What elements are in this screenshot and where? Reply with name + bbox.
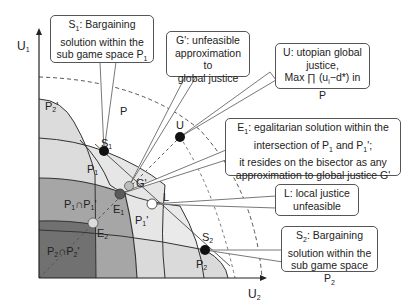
callout-e1: E1: egalitarian solution within the inte… [225, 118, 401, 176]
callout-g-prime: G': unfeasible approximation to global j… [166, 31, 250, 77]
region-label-p2-cap-p2-prime: P2∩P2' [47, 246, 80, 258]
callout-l: L: local justice unfeasible [275, 184, 359, 216]
region-label-p1-prime: P1' [135, 215, 148, 227]
callout-l-line1: L: local justice [280, 187, 354, 200]
point-label-s1: S1 [101, 138, 112, 150]
callout-e1-line2: intersection of P1 and P1'; [230, 139, 396, 157]
region-label-p: P [120, 106, 127, 117]
point-e1 [115, 189, 125, 199]
callout-u-line3: Max ∏ (ui−d*) in P [280, 71, 365, 101]
point-label-s2: S2 [202, 232, 213, 244]
region-label-p1: P1 [87, 164, 98, 176]
region-label-p2-prime: P2' [45, 101, 58, 113]
callout-g-prime-line1: G': unfeasible [171, 34, 245, 47]
point-l [147, 199, 157, 209]
callout-s2-line3: sub game space P2 [286, 259, 373, 289]
point-u [175, 132, 185, 142]
callout-e1-line4: approximation to global justice G' [230, 169, 396, 182]
x-axis-arrow-icon [260, 275, 267, 281]
callout-s2: S2: Bargaining solution within the sub g… [281, 226, 378, 272]
point-s2 [200, 245, 210, 255]
region-label-p2: P2 [196, 259, 207, 271]
callout-s2-line2: solution within the [286, 247, 373, 260]
callout-u-line2: justice, [280, 59, 365, 72]
region-label-p1-cap-p1-prime: P1∩P1' [64, 199, 97, 211]
callout-s2-line1: S2: Bargaining [286, 229, 373, 247]
point-label-u: U [176, 120, 184, 131]
callout-s1-line1: S1: Bargaining [55, 18, 149, 36]
point-label-l: L [163, 192, 169, 203]
callout-g-prime-line3: global justice [171, 72, 245, 85]
callout-e1-line1: E1: egalitarian solution within the [230, 121, 396, 139]
point-label-e1: E1 [113, 204, 124, 216]
point-label-g-prime: G' [136, 178, 147, 189]
callout-s1-line2: solution within the [55, 36, 149, 49]
x-axis-label: U2 [248, 288, 261, 301]
y-axis-arrow-icon [36, 28, 42, 35]
point-label-e2: E2 [97, 228, 108, 240]
callout-s1-line3: sub game space P1 [55, 48, 149, 66]
callout-e1-line3: it resides on the bisector as any [230, 156, 396, 169]
callout-u-line1: U: utopian global [280, 46, 365, 59]
y-axis-label: U1 [17, 40, 30, 53]
callout-s1: S1: Bargaining solution within the sub g… [50, 15, 154, 63]
callout-l-line2: unfeasible [280, 200, 354, 213]
callout-u: U: utopian global justice, Max ∏ (ui−d*)… [275, 43, 370, 89]
callout-g-prime-line2: approximation to [171, 47, 245, 72]
point-g-prime [125, 182, 134, 191]
